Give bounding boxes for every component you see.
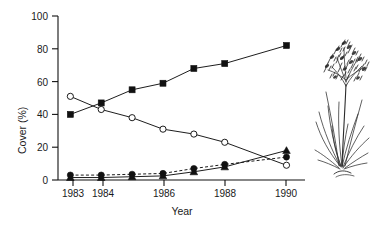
open-circle-series-marker [98, 106, 104, 112]
open-circle-series-marker [129, 115, 135, 121]
y-tick-20: 20 [37, 142, 49, 153]
x-axis-label: Year [171, 205, 193, 217]
filled-circle-series-marker [283, 154, 289, 160]
data-series-layer [67, 43, 291, 181]
filled-square-series-marker [98, 100, 104, 106]
filled-square-series-marker [67, 111, 73, 117]
open-circle-series-marker [222, 139, 228, 145]
filled-square-series-marker [222, 61, 228, 67]
chart-svg: 100 80 60 40 20 0 1983 1984 1986 1988 19… [0, 0, 391, 226]
x-tick-1983: 1983 [62, 188, 85, 199]
y-tick-100: 100 [31, 11, 48, 22]
x-tick-1988: 1988 [214, 188, 237, 199]
open-circle-series-marker [160, 126, 166, 132]
open-circle-series-marker [191, 131, 197, 137]
y-tick-80: 80 [37, 44, 49, 55]
open-circle-series-marker [67, 93, 73, 99]
open-circle-series-marker [283, 162, 289, 168]
y-tick-40: 40 [37, 109, 49, 120]
figure-panel: Cover (%) 100 80 60 40 20 0 [0, 0, 391, 226]
filled-square-series-marker [160, 80, 166, 86]
filled-square-series-marker [129, 87, 135, 93]
x-axis-tick-labels: 1983 1984 1986 1988 1990 [62, 188, 298, 199]
filled-square-series-marker [191, 65, 197, 71]
y-axis-tick-labels: 100 80 60 40 20 0 [31, 11, 48, 186]
y-tick-0: 0 [42, 175, 48, 186]
filled-square-series-marker [283, 43, 289, 49]
x-tick-1986: 1986 [153, 188, 176, 199]
x-tick-1990: 1990 [275, 188, 298, 199]
grass-plant-illustration [315, 40, 369, 177]
y-tick-60: 60 [37, 77, 49, 88]
filled-triangle-series [67, 147, 291, 181]
filled-triangle-series-marker [283, 147, 291, 154]
x-axis-ticks [73, 180, 286, 186]
y-axis-ticks [52, 16, 58, 180]
x-tick-1984: 1984 [92, 188, 115, 199]
